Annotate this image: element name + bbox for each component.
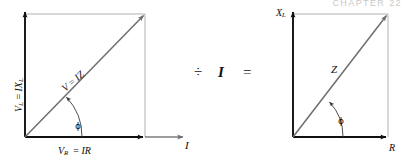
- voltage-vertical-axis-label-subscript: L: [17, 102, 24, 106]
- equals-operator: =: [243, 65, 251, 80]
- voltage-triangle-group: [25, 12, 183, 137]
- impedance-angle-label: ϕ: [338, 117, 344, 126]
- voltage-horizontal-axis-label-rhs: IR: [81, 145, 90, 156]
- current-operand: I: [218, 65, 224, 80]
- voltage-vertical-axis-label-rhs: IX: [13, 82, 24, 91]
- voltage-vertical-axis-label-rhs-subscript: L: [17, 78, 24, 82]
- voltage-vertical-axis-label: VL = IXL: [14, 78, 25, 112]
- voltage-horizontal-axis-label: VR = IR: [58, 146, 91, 157]
- impedance-vertical-axis-label: XL: [276, 8, 286, 19]
- voltage-angle-arc: [67, 97, 83, 137]
- impedance-vertical-axis-label-subscript: L: [282, 11, 286, 18]
- current-axis-label: I: [185, 140, 189, 151]
- figure-root: CHAPTER 22: [0, 0, 406, 168]
- voltage-angle-label: ϕ: [75, 122, 81, 131]
- impedance-hypotenuse-label: Z: [331, 64, 337, 75]
- divide-operator: ÷: [194, 65, 202, 80]
- voltage-vertical-axis-label-text: V: [13, 106, 24, 112]
- impedance-horizontal-axis-label: R: [389, 143, 395, 153]
